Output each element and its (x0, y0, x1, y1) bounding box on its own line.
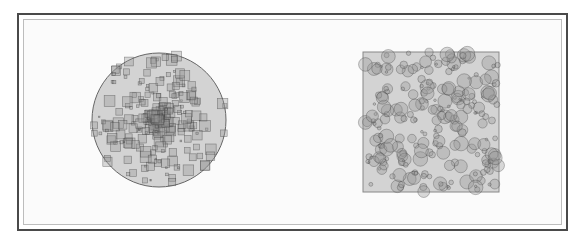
left-panel-disk-with-squares (91, 51, 228, 187)
right-panel-square-with-circles (358, 46, 504, 197)
figure-canvas (0, 0, 588, 245)
